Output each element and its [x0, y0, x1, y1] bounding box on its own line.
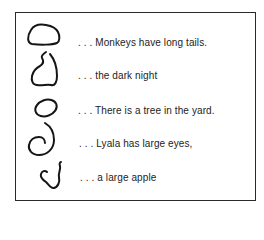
row-label-dark-night: . . . the dark night [78, 70, 157, 82]
row-label-lyala: . . . Lyala has large eyes, [79, 138, 193, 150]
row-label-monkeys: . . . Monkeys have long tails. [78, 37, 207, 49]
row-label-apple: . . . a large apple [80, 172, 156, 184]
row-label-tree: . . . There is a tree in the yard. [78, 105, 215, 117]
